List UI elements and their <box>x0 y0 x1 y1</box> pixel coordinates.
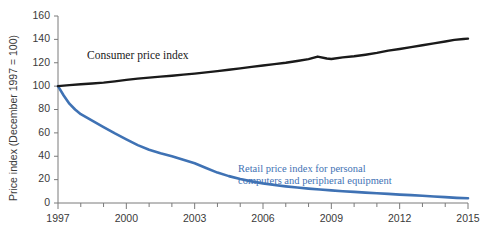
y-tick-label: 0 <box>44 196 50 208</box>
y-tick-label: 40 <box>38 149 50 161</box>
y-tick-label: 100 <box>32 79 50 91</box>
y-tick-label: 60 <box>38 126 50 138</box>
y-tick-label: 80 <box>38 102 50 114</box>
chart-container: Price index (December 1997 = 100) 020406… <box>0 0 491 246</box>
y-axis-ticks: 020406080100120140160 <box>32 9 58 208</box>
y-axis-title-group: Price index (December 1997 = 100) <box>7 35 19 201</box>
series-annotation-consumer-price-index: Consumer price index <box>87 49 189 62</box>
y-tick-label: 120 <box>32 56 50 68</box>
x-tick-label: 2006 <box>251 212 275 224</box>
price-index-line-chart: Price index (December 1997 = 100) 020406… <box>0 0 491 246</box>
y-axis-title: Price index (December 1997 = 100) <box>7 35 19 201</box>
y-tick-label: 140 <box>32 32 50 44</box>
series-annotation-retail-price-index-line1: Retail price index for personal <box>238 163 366 174</box>
series-annotation-retail-price-index-line2: computers and peripheral equipment <box>238 175 392 186</box>
x-tick-label: 2000 <box>115 212 139 224</box>
x-tick-label: 2012 <box>388 212 412 224</box>
x-tick-label: 2003 <box>183 212 207 224</box>
x-axis-ticks: 1997200020032006200920122015 <box>46 203 480 224</box>
series-line-consumer-price-index <box>58 39 468 86</box>
x-tick-label: 2015 <box>456 212 480 224</box>
y-tick-label: 20 <box>38 172 50 184</box>
x-tick-label: 1997 <box>46 212 70 224</box>
x-tick-label: 2009 <box>320 212 344 224</box>
y-tick-label: 160 <box>32 9 50 21</box>
